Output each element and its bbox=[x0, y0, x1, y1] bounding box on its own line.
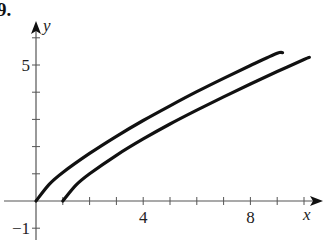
series-group bbox=[36, 52, 309, 201]
upper-curve bbox=[36, 52, 283, 201]
y-tick-label: −1 bbox=[12, 219, 30, 238]
x-tick-label: 8 bbox=[246, 208, 255, 227]
problem-label: 9. bbox=[0, 0, 11, 20]
tick-labels: 485−1 bbox=[12, 56, 255, 238]
x-axis-label: x bbox=[302, 205, 311, 224]
y-axis-label: y bbox=[41, 16, 51, 35]
y-tick-label: 5 bbox=[22, 56, 31, 75]
lower-curve bbox=[63, 57, 310, 201]
chart: 9. 485−1 x y bbox=[0, 0, 336, 242]
x-tick-label: 4 bbox=[139, 208, 148, 227]
